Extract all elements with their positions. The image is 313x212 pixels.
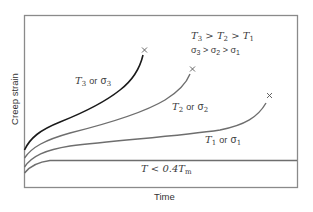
- annotation-stress-order: σ3 > σ2 > σ1: [191, 45, 240, 56]
- t2-var: T: [172, 101, 179, 112]
- order-t-b: T: [217, 30, 224, 41]
- t2-or: or: [186, 102, 194, 112]
- t1-var: T: [205, 134, 212, 145]
- curve-label-t3: T3 or σ3: [75, 75, 111, 88]
- curve-label-t2: T2 or σ2: [172, 101, 208, 114]
- order-s-c-sub: 1: [236, 49, 240, 56]
- order-t-gt2: >: [228, 30, 243, 41]
- order-t-c-sub: 1: [249, 35, 253, 43]
- order-s-gt2: >: [220, 45, 230, 55]
- rupture-marker-t1: [267, 93, 272, 98]
- t1-sigsub: 1: [237, 139, 241, 147]
- chart-plot-area: [0, 0, 313, 212]
- curve-t3: [25, 55, 144, 150]
- curve-label-t1: T1 or σ1: [205, 134, 241, 147]
- t3-or: or: [89, 76, 97, 86]
- order-s-gt1: >: [200, 45, 210, 55]
- t3-sub: 3: [82, 80, 86, 88]
- y-axis-label: Creep strain: [9, 73, 20, 125]
- rupture-marker-t2: [190, 67, 195, 72]
- t1-or: or: [219, 135, 227, 145]
- annotation-temperature-order: T3 > T2 > T1: [191, 30, 254, 43]
- t3-var: T: [75, 75, 82, 86]
- t1-sub: 1: [212, 139, 216, 147]
- t2-sub: 2: [179, 106, 183, 114]
- tlow-prefix: T < 0.4T: [141, 163, 185, 174]
- creep-strain-chart: Creep strain Time T3 or σ3 T2 or σ2 T1 o…: [0, 0, 313, 212]
- order-t-gt1: >: [202, 30, 217, 41]
- rupture-marker-t3: [142, 48, 147, 53]
- x-axis-label: Time: [154, 191, 175, 202]
- curve-label-t-low: T < 0.4Tm: [141, 163, 192, 176]
- order-t-a: T: [191, 30, 198, 41]
- t3-sigsub: 3: [107, 80, 111, 88]
- t2-sigsub: 2: [204, 106, 208, 114]
- tlow-sub: m: [185, 168, 192, 176]
